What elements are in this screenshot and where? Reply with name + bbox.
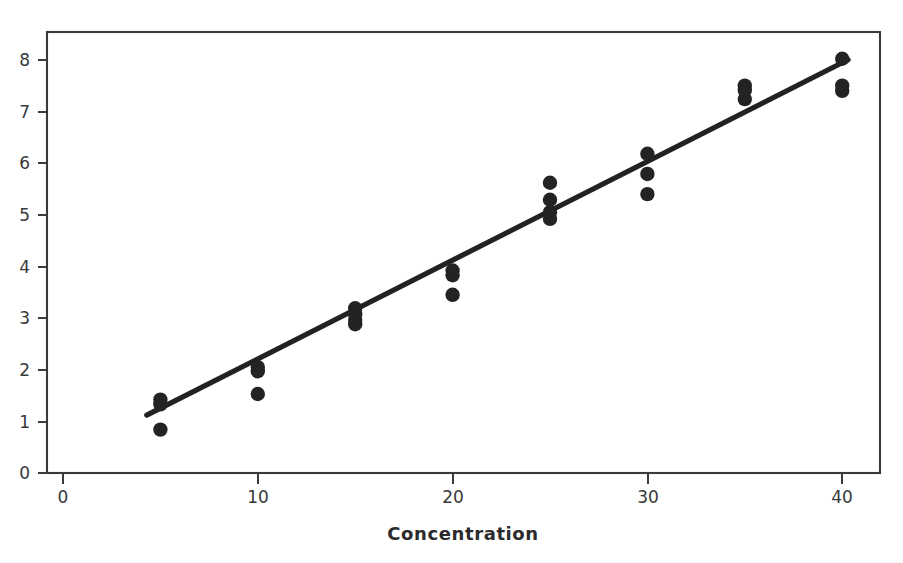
y-tick-label-3: 3 <box>19 308 30 328</box>
data-point <box>445 288 459 302</box>
data-point <box>543 193 557 207</box>
y-axis-tick-labels: 8 7 6 5 4 3 2 1 0 <box>19 50 30 483</box>
y-tick-label-1: 1 <box>19 412 30 432</box>
data-point <box>251 364 265 378</box>
y-axis-ticks <box>38 60 47 473</box>
x-tick-label-30: 30 <box>637 487 659 507</box>
y-tick-label-0: 0 <box>19 463 30 483</box>
data-point <box>640 167 654 181</box>
data-point <box>543 176 557 190</box>
data-point <box>445 268 459 282</box>
data-point <box>835 84 849 98</box>
x-axis-title: Concentration <box>387 523 538 544</box>
y-tick-label-5: 5 <box>19 205 30 225</box>
scatter-plot-figure: 8 7 6 5 4 3 2 1 0 0 10 20 30 40 <box>0 0 903 563</box>
data-point <box>543 212 557 226</box>
data-point <box>640 187 654 201</box>
y-tick-label-6: 6 <box>19 153 30 173</box>
data-point <box>348 317 362 331</box>
plot-canvas: 8 7 6 5 4 3 2 1 0 0 10 20 30 40 <box>0 0 903 563</box>
x-tick-label-20: 20 <box>442 487 464 507</box>
x-axis-tick-labels: 0 10 20 30 40 <box>58 487 853 507</box>
x-tick-label-10: 10 <box>247 487 269 507</box>
data-point <box>640 147 654 161</box>
regression-line <box>147 60 848 415</box>
y-tick-label-8: 8 <box>19 50 30 70</box>
y-tick-label-7: 7 <box>19 102 30 122</box>
data-point <box>251 387 265 401</box>
x-axis-ticks <box>63 473 842 484</box>
data-point <box>153 422 167 436</box>
x-tick-label-0: 0 <box>58 487 69 507</box>
y-tick-label-4: 4 <box>19 257 30 277</box>
y-tick-label-2: 2 <box>19 360 30 380</box>
x-tick-label-40: 40 <box>831 487 853 507</box>
data-point <box>738 92 752 106</box>
data-point <box>835 52 849 66</box>
data-point <box>153 397 167 411</box>
